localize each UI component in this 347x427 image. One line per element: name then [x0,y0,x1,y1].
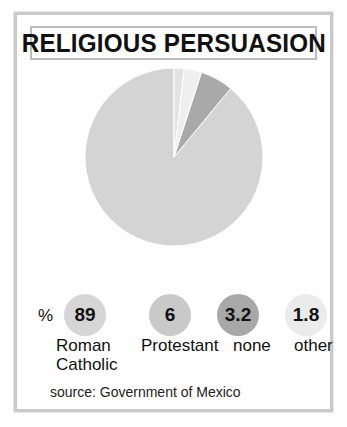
source-note: source: Government of Mexico [50,384,241,400]
category-labels: Roman Catholic Protestant none other [36,336,317,380]
value-bubble-protestant: 6 [149,294,191,336]
pie-svg [85,68,263,246]
pie-chart-area [22,64,325,294]
category-label-protestant: Protestant [141,336,219,355]
infographic-card: RELIGIOUS PERSUASION % 89 6 3.2 1.8 Roma… [14,12,333,412]
value-bubble-other: 1.8 [285,294,327,336]
category-label-roman-catholic: Roman Catholic [56,336,146,374]
legend-row: % 89 6 3.2 1.8 [36,292,315,338]
category-label-none: none [233,336,271,355]
value-bubble-roman-catholic: 89 [64,294,106,336]
percent-symbol-label: % [38,306,53,326]
card-inner-frame: RELIGIOUS PERSUASION % 89 6 3.2 1.8 Roma… [21,19,326,405]
category-label-other: other [294,336,333,355]
title-box: RELIGIOUS PERSUASION [30,26,317,60]
value-bubble-none: 3.2 [217,294,259,336]
pie-chart [85,68,263,246]
page-title: RELIGIOUS PERSUASION [21,29,325,58]
